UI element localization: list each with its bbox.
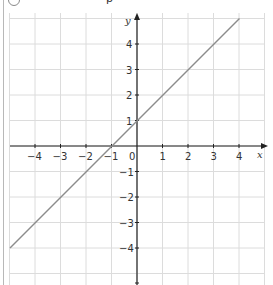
y-tick-label: −3 [119, 218, 134, 229]
x-tick-label: −4 [27, 151, 42, 162]
y-tick-label: 2 [126, 90, 132, 101]
y-tick-label: −4 [119, 243, 134, 254]
x-tick-label: −3 [53, 151, 68, 162]
y-tick-label: −1 [119, 167, 134, 178]
plot-line-y-equals-x-plus-1 [10, 19, 240, 249]
y-tick-label: −2 [119, 192, 134, 203]
x-tick-label: 1 [160, 151, 166, 162]
y-axis-label: y [124, 15, 131, 26]
y-axis [134, 13, 140, 285]
x-tick-label: 4 [236, 151, 242, 162]
y-tick-label: 4 [126, 39, 132, 50]
y-tick-label: 3 [126, 65, 132, 76]
x-axis-label: x [257, 149, 263, 160]
coordinate-graph: −4−3−2−11234 1234−1−2−3−4 0 x y [0, 0, 273, 285]
x-tick-label: 3 [211, 151, 217, 162]
y-tick-label: 1 [126, 116, 132, 127]
x-axis [10, 143, 268, 149]
origin-label: 0 [129, 151, 135, 162]
x-tick-label: −1 [104, 151, 119, 162]
x-tick-label: 2 [185, 151, 191, 162]
x-tick-label: −2 [78, 151, 93, 162]
